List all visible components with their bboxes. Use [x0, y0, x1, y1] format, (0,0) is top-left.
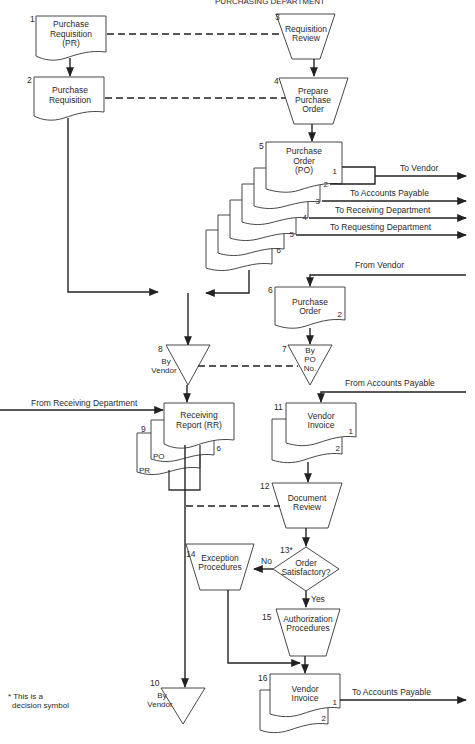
node-14-exception-procedures: 14 Exception Procedures — [186, 544, 254, 590]
svg-text:To Accounts Payable: To Accounts Payable — [350, 188, 429, 198]
svg-text:11: 11 — [274, 402, 283, 412]
svg-text:7: 7 — [282, 344, 287, 354]
svg-text:Satisfactory?: Satisfactory? — [281, 567, 330, 577]
node-8-file-by-vendor: 8 By Vendor — [151, 344, 210, 385]
node-15-authorization-procedures: 15 Authorization Procedures — [262, 609, 340, 656]
svg-text:5: 5 — [259, 141, 264, 151]
svg-text:1: 1 — [333, 167, 338, 176]
svg-text:3: 3 — [316, 197, 321, 206]
footnote-line-2: decision symbol — [12, 701, 69, 710]
svg-text:5: 5 — [290, 230, 295, 239]
svg-text:From Vendor: From Vendor — [355, 260, 404, 270]
footnote-line-1: * This is a — [8, 692, 44, 701]
svg-text:3: 3 — [275, 12, 280, 22]
svg-text:10: 10 — [150, 678, 160, 688]
svg-text:15: 15 — [262, 612, 272, 622]
svg-text:No.: No. — [304, 364, 316, 373]
node-4-prepare-purchase-order: 4 Prepare Purchase Order — [274, 76, 348, 124]
svg-text:Report (RR): Report (RR) — [176, 420, 222, 430]
svg-text:PR: PR — [139, 466, 150, 475]
svg-text:Yes: Yes — [311, 594, 325, 604]
flow-from-vendor — [310, 275, 466, 286]
svg-text:6: 6 — [277, 246, 282, 255]
svg-text:4: 4 — [303, 213, 308, 222]
svg-text:16: 16 — [258, 673, 268, 683]
svg-text:2: 2 — [324, 180, 329, 189]
svg-text:1: 1 — [333, 698, 338, 707]
node-11-vendor-invoice: 11 Vendor Invoice 1 2 — [272, 402, 356, 463]
svg-text:No: No — [261, 556, 272, 566]
svg-text:To Accounts Payable: To Accounts Payable — [352, 687, 431, 697]
svg-text:1: 1 — [349, 427, 354, 436]
svg-text:2: 2 — [27, 75, 32, 85]
svg-text:Review: Review — [292, 33, 321, 43]
svg-text:From Receiving Department: From Receiving Department — [31, 398, 138, 408]
svg-text:9: 9 — [141, 424, 146, 434]
flowchart-canvas: PURCHASING DEPARTMENT 1 Purchase Requisi… — [0, 0, 475, 744]
svg-text:PO: PO — [153, 452, 165, 461]
svg-text:14: 14 — [186, 549, 196, 559]
svg-text:By: By — [157, 691, 166, 700]
node-2-purchase-requisition: 2 Purchase Requisition — [27, 75, 104, 120]
svg-text:Invoice: Invoice — [308, 420, 335, 430]
node-10-file-by-vendor: 10 By Vendor — [147, 678, 205, 724]
svg-text:By: By — [161, 357, 170, 366]
svg-text:4: 4 — [274, 76, 279, 86]
svg-text:Order: Order — [302, 104, 324, 114]
svg-text:Receiving: Receiving — [180, 410, 218, 420]
svg-text:(PR): (PR) — [62, 38, 80, 48]
svg-text:Invoice: Invoice — [292, 693, 319, 703]
node-5-purchase-order-stack: 5 Purchase Order (PO) 1 2 3 4 5 6 — [206, 141, 342, 271]
svg-text:2: 2 — [338, 310, 343, 319]
svg-text:Purchase: Purchase — [286, 146, 322, 156]
node-16-vendor-invoice: 16 Vendor Invoice 1 2 — [258, 673, 340, 733]
svg-text:Procedures: Procedures — [198, 562, 241, 572]
svg-text:Vendor: Vendor — [151, 366, 177, 375]
svg-text:1: 1 — [30, 14, 35, 24]
svg-text:(PO): (PO) — [295, 165, 313, 175]
flow-2-to-merge — [68, 118, 158, 292]
svg-text:6: 6 — [217, 444, 222, 453]
node-13-order-satisfactory-decision: 13* Order Satisfactory? — [273, 545, 339, 591]
svg-text:12: 12 — [260, 481, 270, 491]
svg-text:Purchase: Purchase — [53, 19, 89, 29]
svg-text:To Vendor: To Vendor — [400, 163, 438, 173]
svg-text:By: By — [305, 346, 314, 355]
svg-text:Vendor: Vendor — [147, 700, 173, 709]
svg-text:Review: Review — [293, 502, 322, 512]
svg-text:To Requesting Department: To Requesting Department — [330, 222, 432, 232]
svg-text:6: 6 — [268, 285, 273, 295]
svg-text:Procedures: Procedures — [286, 623, 329, 633]
svg-text:8: 8 — [158, 344, 163, 354]
node-6-purchase-order-copy: 6 Purchase Order 2 — [268, 285, 345, 328]
svg-text:To Receiving Department: To Receiving Department — [335, 205, 431, 215]
svg-text:Purchase: Purchase — [52, 85, 88, 95]
node-7-file-by-po-no: 7 By PO No. — [282, 344, 332, 385]
flow-from-accounts-payable — [321, 392, 466, 402]
node-1-purchase-requisition: 1 Purchase Requisition (PR) — [30, 14, 106, 60]
svg-text:Order: Order — [299, 306, 321, 316]
svg-text:2: 2 — [322, 714, 327, 723]
node-3-requisition-review: 3 Requisition Review — [275, 12, 335, 59]
svg-text:Requisition: Requisition — [49, 95, 91, 105]
svg-text:2: 2 — [336, 444, 341, 453]
svg-text:13*: 13* — [280, 545, 293, 555]
node-12-document-review: 12 Document Review — [260, 481, 342, 528]
svg-text:PO: PO — [304, 355, 316, 364]
flow-5-to-merge — [206, 270, 249, 293]
svg-text:From Accounts Payable: From Accounts Payable — [345, 378, 435, 388]
department-header: PURCHASING DEPARTMENT — [215, 0, 325, 6]
